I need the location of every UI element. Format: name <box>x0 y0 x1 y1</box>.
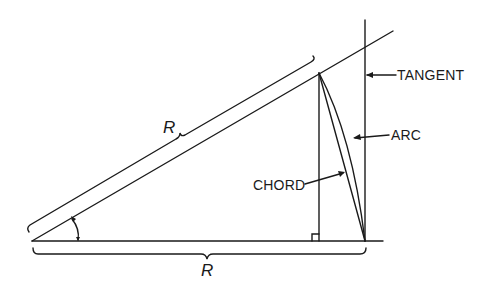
upper-radius-label: R <box>163 118 175 137</box>
chord-line <box>319 73 365 241</box>
chord-arrowhead <box>338 171 345 177</box>
tangent-arrowhead <box>366 72 373 78</box>
inclined-radius-line <box>32 31 393 241</box>
lower-radius-label: R <box>201 261 213 280</box>
right-angle-marker <box>312 234 319 241</box>
angle-arc <box>72 219 78 240</box>
arc-arrowhead <box>353 134 361 140</box>
chord-label: CHORD <box>253 177 305 193</box>
arc-label: ARC <box>391 127 421 143</box>
upper-radius-brace <box>28 56 314 232</box>
geometry-diagram: R R TANGENT ARC CHORD <box>0 0 491 298</box>
chord-leader <box>305 173 343 184</box>
tangent-label: TANGENT <box>397 67 464 83</box>
lower-radius-brace <box>33 248 366 259</box>
